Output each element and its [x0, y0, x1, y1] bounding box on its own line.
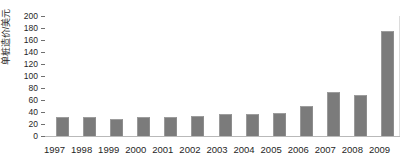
y-axis-tick-mark [41, 16, 45, 17]
y-axis-tick-mark [41, 28, 45, 29]
plot-right-border [399, 16, 400, 136]
y-axis-tick-label: 40 [14, 108, 38, 117]
x-axis-tick-label: 1998 [67, 143, 97, 157]
y-axis-tick-label: 140 [14, 48, 38, 57]
y-axis-tick-label: 200 [14, 12, 38, 21]
x-axis-tick-label: 2007 [310, 143, 340, 157]
plot-area [47, 16, 399, 136]
x-axis-tick-label: 1997 [40, 143, 70, 157]
y-axis-tick-labels: 020406080100120140160180200 [14, 10, 38, 142]
y-axis-tick-label: 0 [14, 132, 38, 141]
bar [381, 31, 394, 136]
bar [327, 92, 340, 136]
bar [246, 114, 259, 136]
y-axis-tick-label: 100 [14, 72, 38, 81]
bar [300, 106, 313, 136]
bar [191, 116, 204, 136]
bar [273, 113, 286, 136]
y-axis-tick-mark [41, 136, 45, 137]
x-axis-tick-label: 2006 [283, 143, 313, 157]
y-axis-tick-mark [41, 40, 45, 41]
x-axis-tick-label: 2003 [202, 143, 232, 157]
bar [56, 117, 69, 136]
y-axis-tick-mark [41, 52, 45, 53]
bar [354, 95, 367, 136]
y-axis-tick-mark [41, 100, 45, 101]
bar [219, 114, 232, 136]
bar [137, 117, 150, 136]
y-axis-tick-label: 120 [14, 60, 38, 69]
x-axis-tick-label: 2005 [256, 143, 286, 157]
x-axis-tick-label: 2000 [121, 143, 151, 157]
bar-chart-figure: 单桩造价/美元 020406080100120140160180200 1997… [0, 0, 413, 166]
x-axis-line [44, 136, 400, 137]
x-axis-tick-label: 2008 [337, 143, 367, 157]
y-axis-tick-mark [41, 88, 45, 89]
x-axis-tick-label: 2001 [148, 143, 178, 157]
x-axis-tick-label: 2004 [229, 143, 259, 157]
x-axis-tick-label: 2009 [364, 143, 394, 157]
y-axis-tick-mark [41, 112, 45, 113]
x-axis-tick-label: 2002 [175, 143, 205, 157]
bar [110, 119, 123, 136]
bar [164, 117, 177, 136]
y-axis-tick-label: 60 [14, 96, 38, 105]
y-axis-tick-label: 20 [14, 120, 38, 129]
y-axis-tick-mark [41, 64, 45, 65]
x-axis-tick-labels: 1997199819992000200120022003200420052006… [47, 143, 399, 159]
bar [83, 117, 96, 136]
y-axis-tick-label: 160 [14, 36, 38, 45]
y-axis-title: 单桩造价/美元 [0, 0, 13, 87]
y-axis-tick-mark [41, 76, 45, 77]
x-axis-tick-label: 1999 [94, 143, 124, 157]
y-axis-tick-mark [41, 124, 45, 125]
y-axis-tick-label: 180 [14, 24, 38, 33]
y-axis-tick-label: 80 [14, 84, 38, 93]
